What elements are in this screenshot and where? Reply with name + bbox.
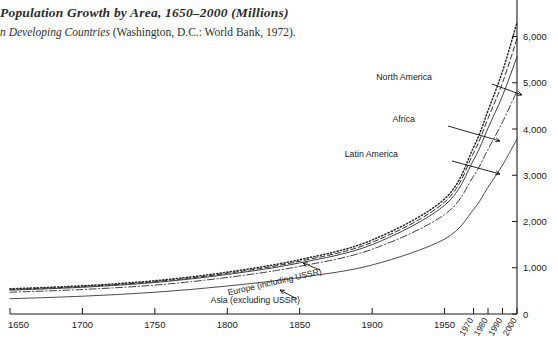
x-tick-label-rotated: 1990 bbox=[486, 316, 504, 338]
series-line-asia-excluding-ussr bbox=[10, 139, 517, 299]
annotation-leader-africa bbox=[448, 126, 500, 141]
x-tick-label-rotated: 2000 bbox=[501, 316, 519, 338]
series-layer bbox=[10, 23, 517, 299]
annotation-label-north-america: North America bbox=[376, 72, 432, 82]
figure-population-growth: Population Growth by Area, 1650–2000 (Mi… bbox=[0, 0, 558, 348]
x-tick-label: 1650 bbox=[8, 319, 29, 330]
y-tick-label: 0 bbox=[523, 309, 528, 320]
series-line-europe-including-ussr bbox=[10, 91, 517, 292]
annotation-label-latin-america: Latin America bbox=[345, 149, 398, 159]
annotation-label-asia: Asia (excluding USSR) bbox=[211, 295, 301, 305]
x-tick-label: 1750 bbox=[144, 319, 165, 330]
series-line-north-america bbox=[10, 23, 517, 289]
y-tick-label: 1,000 bbox=[523, 262, 547, 273]
y-tick-label: 4,000 bbox=[523, 124, 547, 135]
x-tick-label: 1900 bbox=[362, 319, 383, 330]
x-tick-label-rotated: 1970 bbox=[457, 316, 475, 338]
x-tick-label: 1950 bbox=[434, 319, 455, 330]
chart-canvas: 01,0002,0003,0004,0005,0006,000165017001… bbox=[0, 0, 558, 348]
x-tick-label-rotated: 1980 bbox=[472, 316, 490, 338]
series-line-latin-america bbox=[10, 57, 517, 290]
x-tick-label: 1700 bbox=[72, 319, 93, 330]
series-line-africa bbox=[10, 39, 517, 290]
y-tick-label: 3,000 bbox=[523, 170, 547, 181]
annotation-label-africa: Africa bbox=[393, 114, 416, 124]
x-tick-label: 1800 bbox=[217, 319, 238, 330]
y-tick-label: 5,000 bbox=[523, 77, 547, 88]
y-tick-label: 6,000 bbox=[523, 31, 547, 42]
y-tick-label: 2,000 bbox=[523, 216, 547, 227]
x-tick-label: 1850 bbox=[289, 319, 310, 330]
